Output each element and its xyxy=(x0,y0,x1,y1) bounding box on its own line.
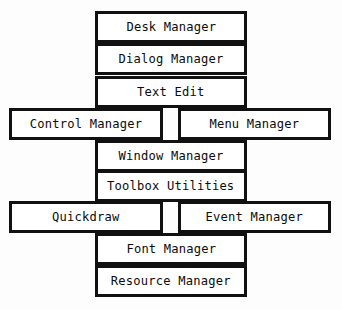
diagram-node-label: Desk Manager xyxy=(126,21,216,34)
diagram-row: Resource Manager xyxy=(0,267,342,295)
diagram-node-label: Event Manager xyxy=(206,211,303,224)
diagram-node-label: Toolbox Utilities xyxy=(107,180,234,193)
diagram-node[interactable]: Desk Manager xyxy=(97,13,245,41)
diagram-node[interactable]: Font Manager xyxy=(97,235,245,263)
diagram-node-label: Control Manager xyxy=(30,118,142,131)
diagram-node-label: Font Manager xyxy=(126,243,216,256)
diagram-row: Dialog Manager xyxy=(0,45,342,73)
diagram-row: Control ManagerMenu Manager xyxy=(0,110,342,138)
diagram-node-label: Window Manager xyxy=(119,150,224,163)
diagram-row: QuickdrawEvent Manager xyxy=(0,203,342,231)
diagram-node-label: Resource Manager xyxy=(111,275,231,288)
diagram-row: Text Edit xyxy=(0,78,342,106)
diagram-node[interactable]: Resource Manager xyxy=(97,267,245,295)
diagram-node[interactable]: Window Manager xyxy=(97,142,245,170)
diagram-node[interactable]: Menu Manager xyxy=(180,110,329,138)
diagram-node-label: Quickdraw xyxy=(52,211,119,224)
diagram-row: Window Manager xyxy=(0,142,342,170)
diagram-node[interactable]: Event Manager xyxy=(180,203,329,231)
diagram-row: Toolbox Utilities xyxy=(0,172,342,200)
diagram-node-label: Text Edit xyxy=(137,86,204,99)
diagram-node-label: Menu Manager xyxy=(210,118,300,131)
diagram-node[interactable]: Toolbox Utilities xyxy=(97,172,245,200)
layer-diagram: Desk ManagerDialog ManagerText EditContr… xyxy=(0,0,342,310)
diagram-node[interactable]: Dialog Manager xyxy=(97,45,245,73)
diagram-row: Desk Manager xyxy=(0,13,342,41)
diagram-node[interactable]: Control Manager xyxy=(11,110,161,138)
diagram-node[interactable]: Text Edit xyxy=(97,78,245,106)
diagram-node-label: Dialog Manager xyxy=(119,53,224,66)
diagram-node[interactable]: Quickdraw xyxy=(11,203,161,231)
diagram-row: Font Manager xyxy=(0,235,342,263)
